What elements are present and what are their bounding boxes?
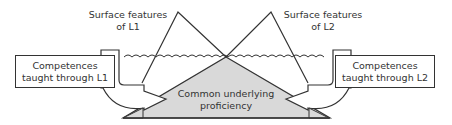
label-cup-line1: Common underlying [176, 88, 276, 100]
box-competences-l2: Competences taught through L2 [335, 55, 435, 88]
label-surface-l2: Surface features of L2 [283, 9, 363, 33]
label-surface-l2-line2: of L2 [283, 21, 363, 33]
label-surface-l1: Surface features of L1 [88, 9, 168, 33]
label-surface-l2-line1: Surface features [283, 9, 363, 21]
box-l1-line2: taught through L1 [22, 72, 108, 84]
label-surface-l1-line2: of L1 [88, 21, 168, 33]
label-cup-line2: proficiency [176, 100, 276, 112]
box-l2-line1: Competences [352, 60, 417, 72]
right-base-wedge [309, 108, 329, 118]
box-l2-line2: taught through L2 [342, 72, 428, 84]
left-base-wedge [123, 108, 143, 118]
dual-iceberg-diagram: Surface features of L1 Surface features … [0, 0, 452, 125]
label-surface-l1-line1: Surface features [88, 9, 168, 21]
box-competences-l1: Competences taught through L1 [15, 55, 115, 88]
box-l1-line1: Competences [32, 60, 97, 72]
label-cup: Common underlying proficiency [176, 88, 276, 112]
